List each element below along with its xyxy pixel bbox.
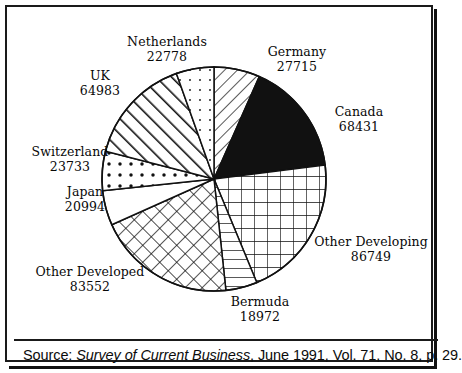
pie-label-germany: Germany 27715 bbox=[237, 45, 357, 74]
pie-chart: Netherlands 22778 Germany 27715 UK 64983… bbox=[7, 7, 447, 339]
source-note: Source: Survey of Current Business, June… bbox=[23, 347, 433, 369]
pie-label-germany-value: 27715 bbox=[237, 60, 357, 75]
pie-label-japan: Japan 20994 bbox=[35, 185, 135, 214]
pie-label-germany-name: Germany bbox=[237, 45, 357, 60]
pie-label-uk-value: 64983 bbox=[45, 84, 155, 99]
pie-label-netherlands: Netherlands 22778 bbox=[92, 35, 242, 64]
pie-label-netherlands-value: 22778 bbox=[92, 50, 242, 65]
pie-label-uk: UK 64983 bbox=[45, 69, 155, 98]
pie-label-bermuda: Bermuda 18972 bbox=[195, 295, 325, 324]
source-divider bbox=[14, 339, 438, 341]
pie-label-netherlands-name: Netherlands bbox=[92, 35, 242, 50]
pie-label-other-developed: Other Developed 83552 bbox=[15, 265, 165, 294]
pie-label-switzerland-name: Switzerland bbox=[12, 145, 128, 160]
pie-label-bermuda-name: Bermuda bbox=[195, 295, 325, 310]
pie-label-other-developed-name: Other Developed bbox=[15, 265, 165, 280]
source-prefix: Source: bbox=[23, 347, 76, 363]
pie-label-uk-name: UK bbox=[45, 69, 155, 84]
pie-label-japan-value: 20994 bbox=[35, 200, 135, 215]
pie-label-canada: Canada 68431 bbox=[299, 105, 419, 134]
pie-label-japan-name: Japan bbox=[35, 185, 135, 200]
figure-frame: Netherlands 22778 Germany 27715 UK 64983… bbox=[5, 5, 433, 362]
pie-label-switzerland-value: 23733 bbox=[12, 160, 128, 175]
pie-label-bermuda-value: 18972 bbox=[195, 310, 325, 325]
pie-label-other-developing-value: 86749 bbox=[297, 250, 445, 265]
pie-slices bbox=[102, 67, 326, 291]
pie-label-other-developing-name: Other Developing bbox=[297, 235, 445, 250]
source-publication: Survey of Current Business bbox=[76, 347, 250, 363]
pie-label-other-developed-value: 83552 bbox=[15, 280, 165, 295]
pie-label-canada-name: Canada bbox=[299, 105, 419, 120]
pie-label-switzerland: Switzerland 23733 bbox=[12, 145, 128, 174]
source-suffix: , June 1991, Vol. 71, No. 8, p. 29. bbox=[250, 347, 462, 363]
pie-label-other-developing: Other Developing 86749 bbox=[297, 235, 445, 264]
pie-label-canada-value: 68431 bbox=[299, 120, 419, 135]
